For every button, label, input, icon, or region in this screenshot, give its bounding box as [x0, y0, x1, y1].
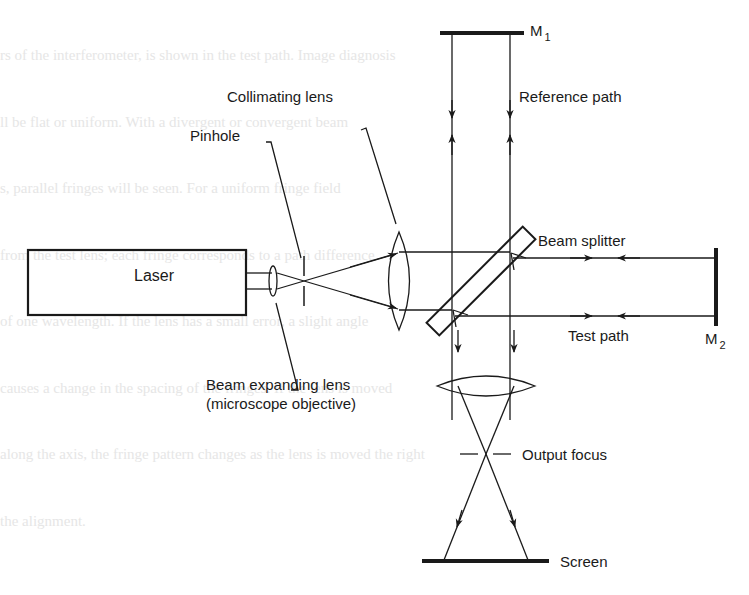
- beam-splitter-label: Beam splitter: [538, 232, 626, 249]
- pinhole-label: Pinhole: [190, 127, 240, 144]
- pinhole-leader: [266, 142, 301, 258]
- microscope-objective-label: (microscope objective): [206, 395, 356, 412]
- interferometer-diagram: [0, 0, 749, 595]
- laser-label: Laser: [134, 267, 174, 284]
- mirror-m1-label: M1: [530, 22, 551, 41]
- mirror-m2-letter: M: [705, 330, 718, 347]
- collimating-lens-leader: [361, 128, 396, 224]
- screen-label: Screen: [560, 553, 608, 570]
- collimating-lens: [389, 232, 410, 330]
- collimating-lens-label: Collimating lens: [227, 88, 333, 105]
- beam-splitter: [427, 227, 536, 336]
- beam-expanding-lens: [269, 266, 277, 296]
- output-focus-label: Output focus: [522, 446, 607, 463]
- test-path-label: Test path: [568, 327, 629, 344]
- beam-expanding-lens-label: Beam expanding lens: [206, 376, 350, 393]
- reference-path-label: Reference path: [519, 88, 622, 105]
- mirror-m2-label: M2: [705, 330, 726, 349]
- mirror-m1-subscript: 1: [545, 31, 551, 43]
- mirror-m1-letter: M: [530, 22, 543, 39]
- mirror-m2-subscript: 2: [720, 339, 726, 351]
